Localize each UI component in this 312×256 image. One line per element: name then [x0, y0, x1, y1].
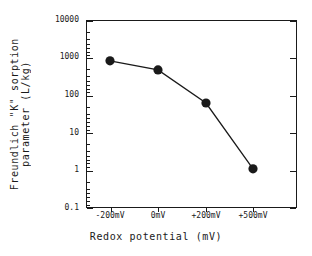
y-major-tick-right-0.1: [290, 208, 296, 209]
y-minor-tick: [87, 197, 90, 198]
y-minor-tick: [87, 118, 90, 119]
x-axis-tick-labels: -200mV 0mV +200mV +500mV: [0, 211, 312, 225]
y-minor-tick: [87, 189, 90, 190]
y-major-tick-right-100: [290, 96, 296, 97]
y-minor-tick: [87, 167, 90, 168]
y-major-tick-right-1000: [290, 58, 296, 59]
y-minor-tick: [87, 182, 90, 183]
y-minor-tick: [87, 92, 90, 93]
y-minor-tick: [87, 52, 90, 53]
x-tick-label--200mV: -200mV: [96, 211, 125, 221]
y-minor-tick: [87, 160, 90, 161]
plot-area: [86, 20, 297, 208]
chart-figure: Freundlich "K" sorption parameter (L/kg)…: [0, 0, 312, 256]
y-minor-tick: [87, 76, 90, 77]
y-minor-tick: [87, 32, 90, 33]
y-major-tick-0.1: [87, 208, 93, 209]
y-major-tick-100: [87, 96, 93, 97]
y-major-tick-right-10000: [290, 21, 296, 22]
y-minor-tick: [87, 193, 90, 194]
y-minor-tick: [87, 107, 90, 108]
y-tick-label-1000: 1000: [60, 53, 79, 61]
y-minor-tick: [87, 55, 90, 56]
y-minor-tick: [87, 89, 90, 90]
y-minor-tick: [87, 114, 90, 115]
y-minor-tick: [87, 81, 90, 82]
y-major-tick-10: [87, 133, 93, 134]
x-tick-label-+500mV: +500mV: [239, 211, 268, 221]
y-minor-tick: [87, 126, 90, 127]
y-major-tick-right-10: [290, 133, 296, 134]
y-major-tick-1: [87, 171, 93, 172]
x-tick-label-0mV: 0mV: [151, 211, 165, 221]
y-major-tick-1000: [87, 58, 93, 59]
y-minor-tick: [87, 44, 90, 45]
x-tick-label-+200mV: +200mV: [192, 211, 221, 221]
y-major-tick-10000: [87, 21, 93, 22]
y-minor-tick: [87, 156, 90, 157]
y-tick-label-10: 10: [69, 129, 79, 137]
y-minor-tick: [87, 85, 90, 86]
y-minor-tick: [87, 205, 90, 206]
y-minor-tick: [87, 69, 90, 70]
x-axis-title: Redox potential (mV): [0, 231, 312, 242]
y-minor-tick: [87, 151, 90, 152]
y-minor-tick: [87, 144, 90, 145]
y-minor-tick: [87, 122, 90, 123]
y-minor-tick: [87, 130, 90, 131]
y-minor-tick: [87, 201, 90, 202]
y-minor-tick: [87, 48, 90, 49]
y-minor-tick: [87, 163, 90, 164]
y-tick-label-1: 1: [74, 166, 79, 174]
y-major-tick-right-1: [290, 171, 296, 172]
y-minor-tick: [87, 39, 90, 40]
y-tick-label-10000: 10000: [55, 16, 79, 24]
y-tick-label-100: 100: [65, 91, 79, 99]
